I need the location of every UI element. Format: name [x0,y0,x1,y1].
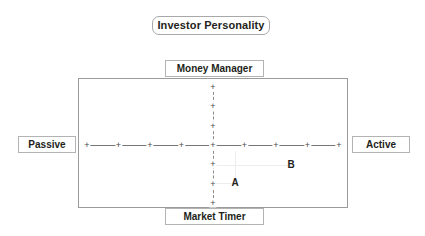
diagram-title-box: Investor Personality [152,16,270,35]
axis-tick-horizontal: + [178,141,185,150]
vertical-axis-line [213,87,214,203]
axis-tick-vertical: + [209,83,216,92]
axis-label-money-manager: Money Manager [165,60,264,77]
guide-b-horizontal [213,165,291,166]
axis-tick-vertical: + [209,121,216,130]
guide-a-horizontal [213,183,235,184]
data-point-a: A [231,178,238,188]
axis-label-active: Active [352,136,410,153]
guide-b-vertical [235,151,236,183]
axis-label-top-text: Money Manager [177,64,253,74]
diagram-canvas: Investor Personality Money Manager Marke… [0,0,425,236]
axis-label-right-text: Active [366,140,396,150]
axis-tick-vertical: + [209,160,216,169]
axis-tick-horizontal: + [272,141,279,150]
plot-frame: ++++++++++++++++AB [78,78,348,208]
axis-tick-horizontal: + [335,141,342,150]
page-title: Investor Personality [157,20,264,31]
axis-label-bottom-text: Market Timer [183,212,245,222]
axis-tick-vertical: + [209,179,216,188]
axis-tick-horizontal: + [209,141,216,150]
axis-tick-vertical: + [209,141,216,150]
axis-layer: ++++++++++++++++AB [79,79,349,209]
axis-tick-horizontal: + [304,141,311,150]
axis-tick-horizontal: + [83,141,90,150]
axis-label-passive: Passive [18,136,76,153]
horizontal-axis-line [87,145,341,146]
axis-label-market-timer: Market Timer [165,208,264,225]
axis-tick-vertical: + [209,102,216,111]
axis-tick-horizontal: + [115,141,122,150]
axis-tick-vertical: + [209,199,216,208]
data-point-b: B [287,160,294,170]
axis-tick-horizontal: + [241,141,248,150]
axis-label-left-text: Passive [28,140,65,150]
axis-tick-horizontal: + [146,141,153,150]
